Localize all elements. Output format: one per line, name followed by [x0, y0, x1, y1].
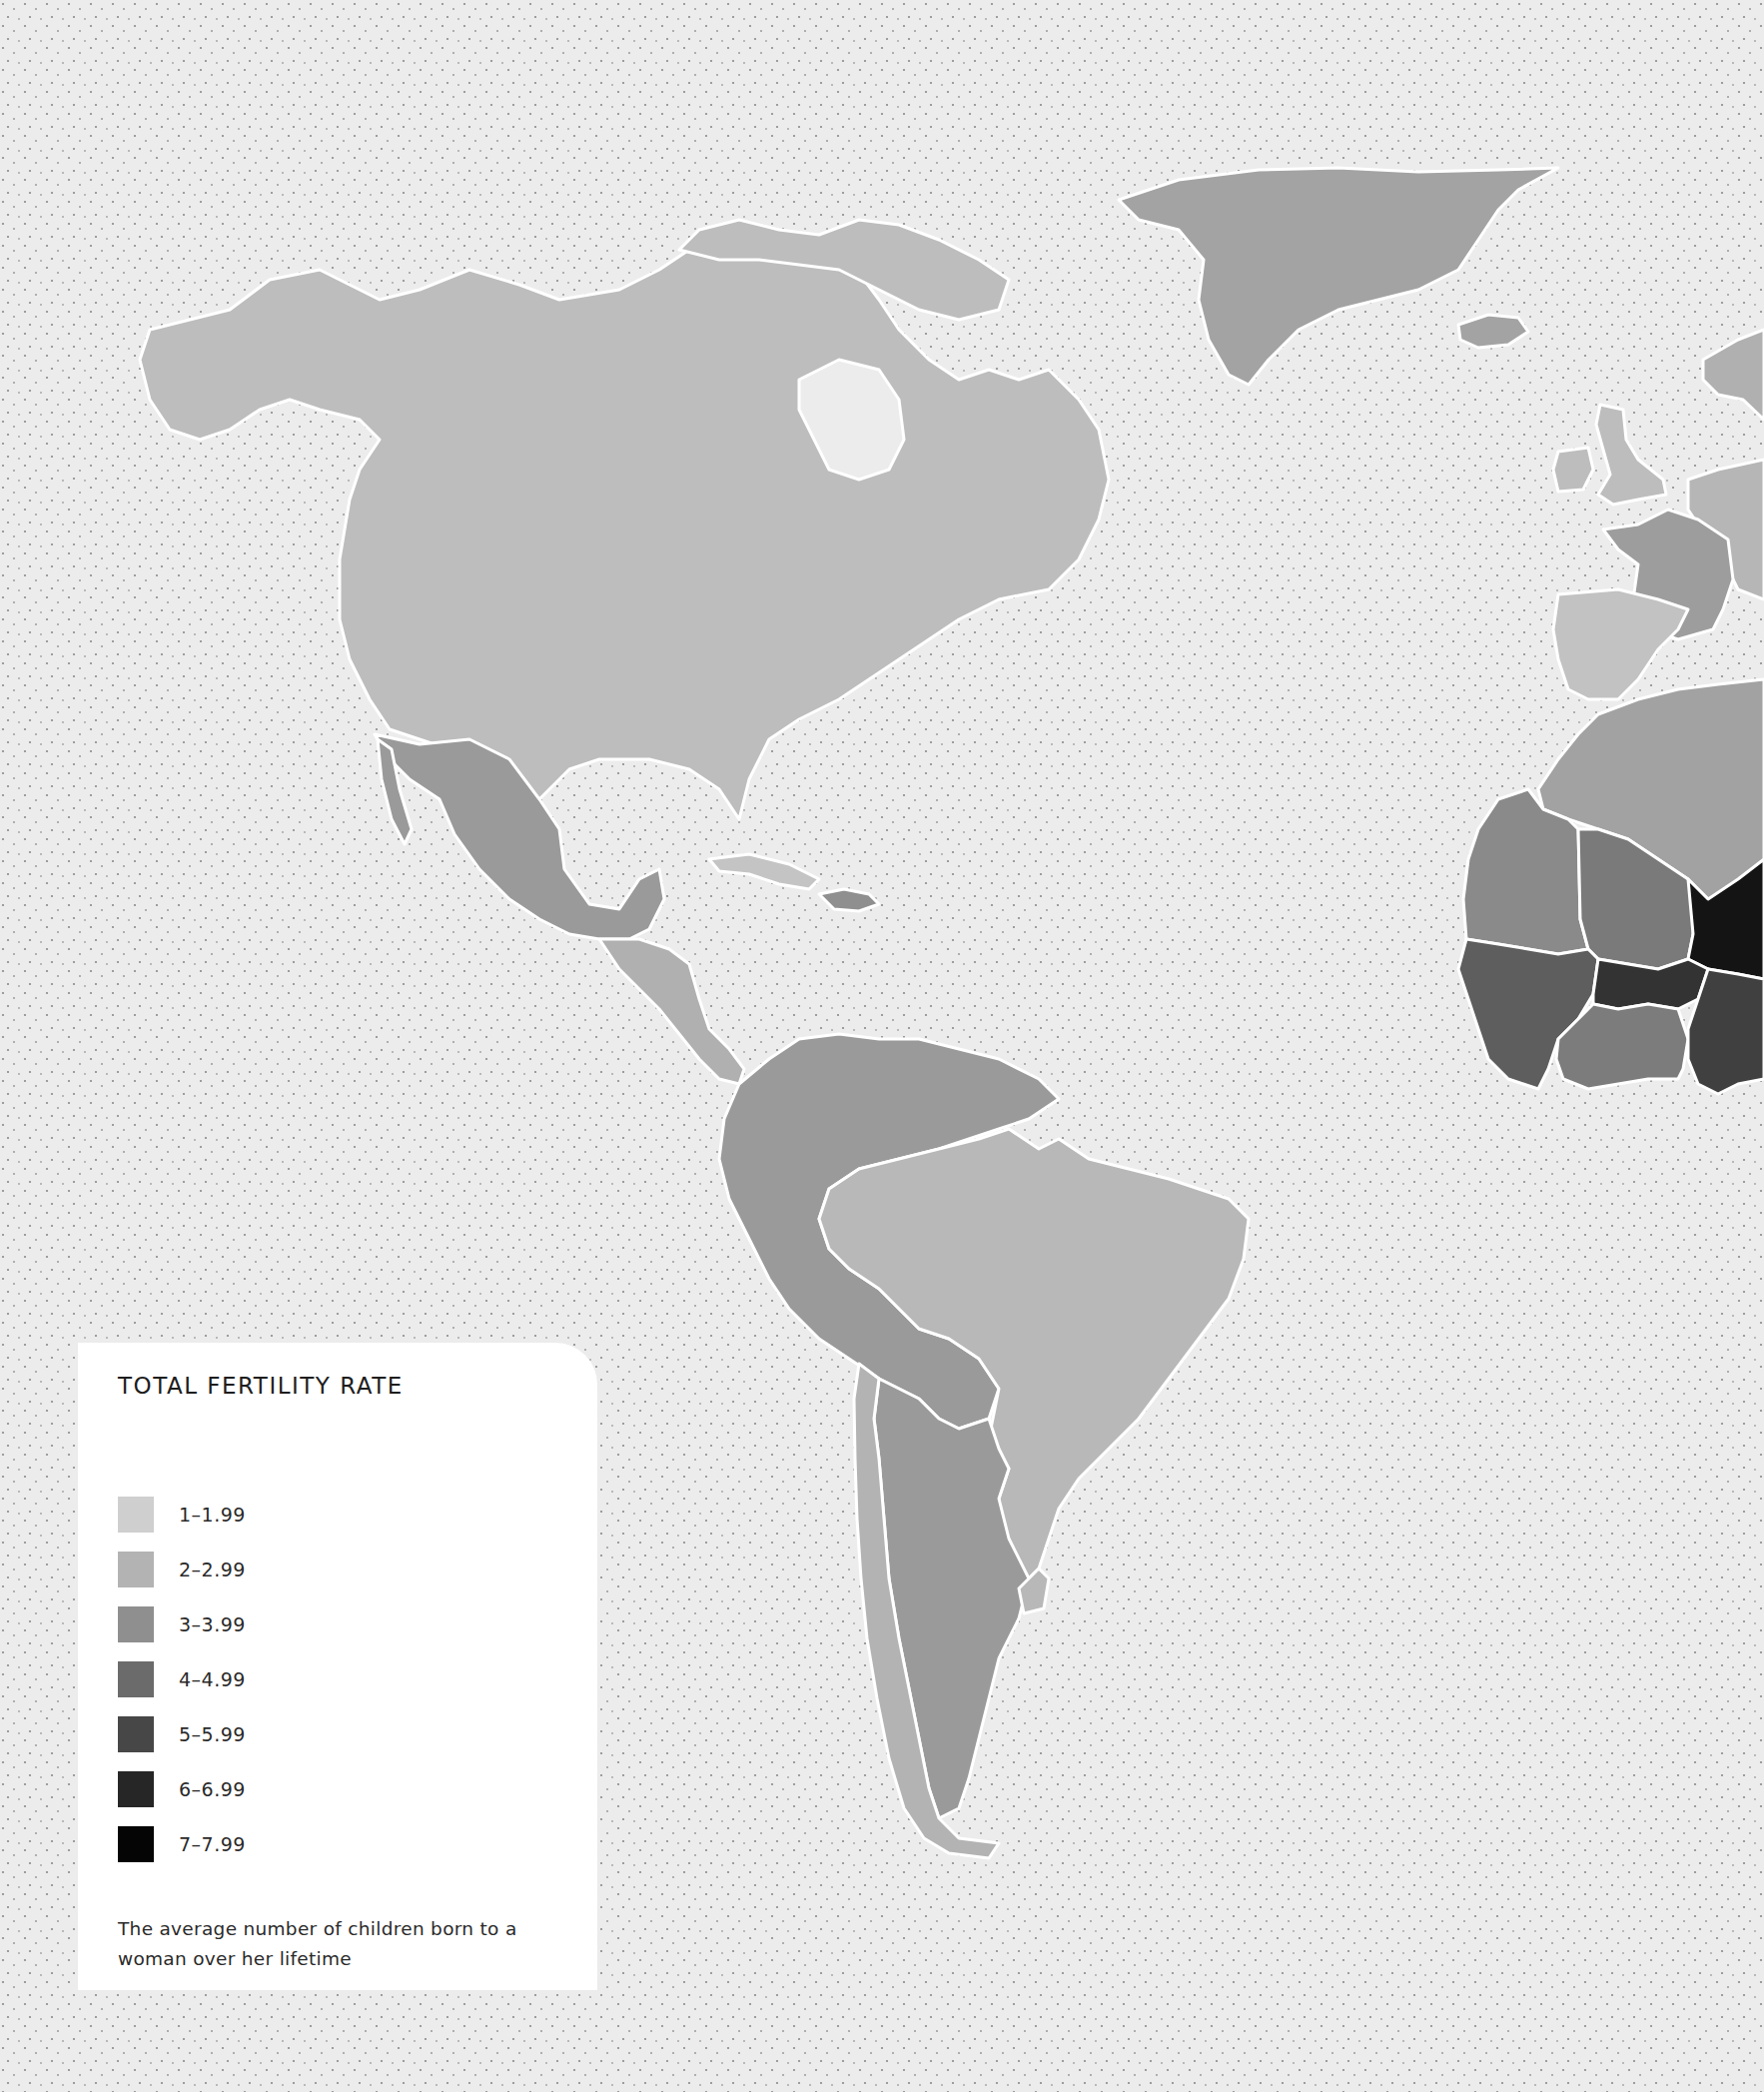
legend-label: 7–7.99 [179, 1833, 246, 1855]
legend-swatch [118, 1606, 154, 1642]
legend-swatch [118, 1716, 154, 1752]
legend-label: 5–5.99 [179, 1723, 246, 1745]
legend-swatch [118, 1826, 154, 1862]
legend-title: TOTAL FERTILITY RATE [118, 1373, 404, 1399]
legend-item: 1–1.99 [118, 1487, 246, 1542]
legend-swatch [118, 1771, 154, 1807]
legend-panel: TOTAL FERTILITY RATE 1–1.99 2–2.99 3–3.9… [78, 1343, 597, 1990]
legend-item: 7–7.99 [118, 1816, 246, 1871]
legend-label: 6–6.99 [179, 1778, 246, 1800]
legend-item: 2–2.99 [118, 1542, 246, 1596]
legend-item: 3–3.99 [118, 1596, 246, 1651]
legend-description-line: woman over her lifetime [118, 1944, 557, 1974]
legend-description: The average number of children born to a… [118, 1914, 557, 1974]
legend-swatch [118, 1661, 154, 1697]
legend-label: 2–2.99 [179, 1559, 246, 1580]
legend-item: 5–5.99 [118, 1706, 246, 1761]
legend-swatch [118, 1552, 154, 1587]
legend-list: 1–1.99 2–2.99 3–3.99 4–4.99 5–5.99 6–6.9… [118, 1487, 246, 1871]
legend-label: 4–4.99 [179, 1668, 246, 1690]
legend-swatch [118, 1497, 154, 1533]
legend-item: 4–4.99 [118, 1651, 246, 1706]
legend-item: 6–6.99 [118, 1761, 246, 1816]
region-burkina-faso [1593, 959, 1708, 1009]
legend-description-line: The average number of children born to a [118, 1914, 557, 1944]
legend-label: 1–1.99 [179, 1504, 246, 1526]
legend-label: 3–3.99 [179, 1613, 246, 1635]
